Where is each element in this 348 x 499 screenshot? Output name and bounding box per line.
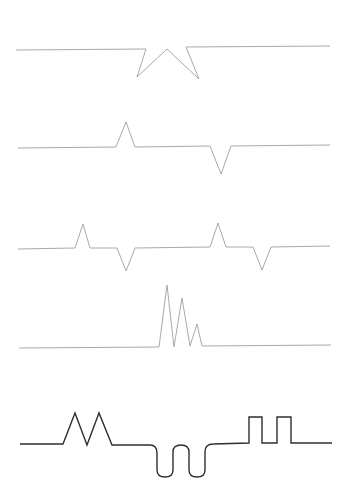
waveform-diagram: [0, 0, 348, 499]
diagram-background: [0, 0, 348, 499]
